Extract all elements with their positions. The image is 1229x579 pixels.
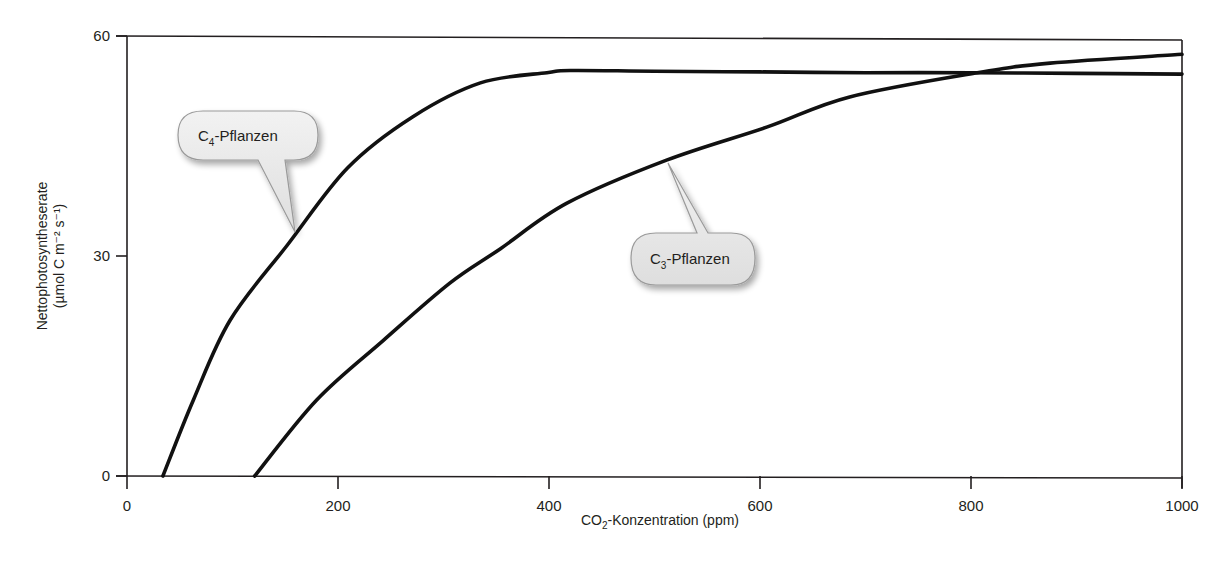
- x-tick-label: 0: [123, 497, 131, 514]
- photosynthesis-chart: 03060 02004006008001000 C4-Pflanzen C3-P…: [0, 0, 1229, 579]
- y-tick-label: 30: [93, 247, 110, 264]
- y-axis-title-line2: (µmol C m⁻² s⁻¹): [51, 204, 67, 309]
- y-axis-title-line1: Nettophotosyntheserate: [34, 181, 50, 330]
- x-axis: [116, 476, 1182, 478]
- y-axis-title: Nettophotosyntheserate (µmol C m⁻² s⁻¹): [34, 181, 67, 330]
- x-tick-label: 1000: [1165, 497, 1198, 514]
- top-frame-line: [116, 36, 1182, 40]
- x-tick-label: 200: [325, 497, 350, 514]
- x-tick-label: 400: [536, 497, 561, 514]
- x-tick-label: 600: [747, 497, 772, 514]
- y-tick-label: 0: [102, 467, 110, 484]
- y-tick-label: 60: [93, 27, 110, 44]
- x-tick-label: 800: [958, 497, 983, 514]
- x-axis-title: CO2-Konzentration (ppm): [581, 512, 739, 531]
- y-ticks: 03060: [93, 27, 127, 484]
- x-ticks: 02004006008001000: [123, 476, 1199, 514]
